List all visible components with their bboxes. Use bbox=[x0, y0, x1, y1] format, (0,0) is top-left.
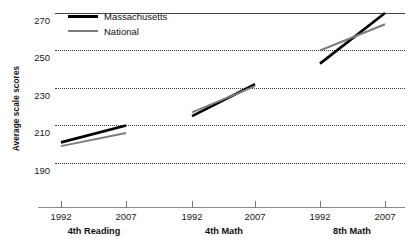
series-line-national-4th-math bbox=[192, 86, 255, 112]
x-tick-reading-2007 bbox=[126, 201, 127, 208]
x-tick-label-reading-1992: 1992 bbox=[41, 211, 81, 222]
x-tick-4math-2007 bbox=[255, 201, 256, 208]
x-tick-4math-1992 bbox=[192, 201, 193, 208]
x-axis-line bbox=[38, 207, 405, 208]
x-tick-label-4math-2007: 2007 bbox=[235, 211, 275, 222]
x-tick-label-8math-2007: 2007 bbox=[365, 211, 405, 222]
group-label-4th-math: 4th Math bbox=[169, 226, 279, 236]
series-line-national-8th-math bbox=[320, 24, 385, 50]
x-tick-8math-2007 bbox=[385, 201, 386, 208]
x-tick-reading-1992 bbox=[61, 201, 62, 208]
chart-container: Average scale scores 270 250 230 210 190… bbox=[0, 0, 410, 247]
x-tick-label-reading-2007: 2007 bbox=[106, 211, 146, 222]
data-series-layer bbox=[0, 0, 410, 247]
x-tick-8math-1992 bbox=[320, 201, 321, 208]
group-label-4th-reading: 4th Reading bbox=[39, 226, 149, 236]
x-tick-label-8math-1992: 1992 bbox=[300, 211, 340, 222]
group-label-8th-math: 8th Math bbox=[297, 226, 407, 236]
x-tick-label-4math-1992: 1992 bbox=[172, 211, 212, 222]
